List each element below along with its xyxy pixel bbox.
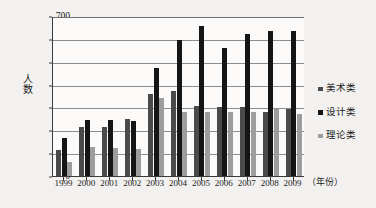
bar [222, 48, 227, 176]
bar [251, 112, 256, 176]
chart-legend: 美术类设计类理论类 [318, 84, 356, 155]
bar [131, 121, 136, 176]
x-tick-label: 2006 [215, 179, 233, 188]
bar-group [217, 17, 233, 176]
bar [56, 150, 61, 176]
x-tick-label: 2009 [284, 179, 302, 188]
legend-swatch-icon [318, 134, 323, 139]
bar [113, 148, 118, 176]
bar [263, 112, 268, 176]
bar [67, 162, 72, 176]
x-tick-label: 2007 [238, 179, 256, 188]
plot-area [52, 17, 304, 177]
bar-group [171, 17, 187, 176]
bar-group [102, 17, 118, 176]
bar [228, 112, 233, 176]
bar [62, 138, 67, 176]
x-tick-label: 1999 [54, 179, 72, 188]
bar [286, 109, 291, 176]
bar [245, 34, 250, 176]
bar [268, 31, 273, 176]
bar-group [125, 17, 141, 176]
bar [125, 119, 130, 176]
bar [240, 107, 245, 176]
x-tick-label: 2004 [169, 179, 187, 188]
bar [79, 127, 84, 176]
x-axis-ticks: 1999200020012002200320042005200620072008… [52, 178, 304, 192]
bar [199, 26, 204, 176]
x-tick-label: 2005 [192, 179, 210, 188]
bar [171, 91, 176, 176]
bar [205, 112, 210, 176]
legend-label: 设计类 [326, 108, 356, 118]
bar [108, 120, 113, 176]
bar [148, 94, 153, 176]
bar [159, 98, 164, 176]
bar [291, 31, 296, 176]
bar-group [194, 17, 210, 176]
bar-group [56, 17, 72, 176]
legend-item[interactable]: 理论类 [318, 131, 356, 141]
x-tick-label: 2000 [77, 179, 95, 188]
bar [194, 106, 199, 176]
bar-group [263, 17, 279, 176]
bar-group [286, 17, 302, 176]
bar [136, 149, 141, 176]
x-tick-label: 2002 [123, 179, 141, 188]
bar-chart: 人数 0100200300400500600700 19992000200120… [0, 0, 376, 208]
bar-group [240, 17, 256, 176]
legend-label: 美术类 [326, 84, 356, 94]
bar [217, 107, 222, 176]
x-tick-label: 2001 [100, 179, 118, 188]
bar-group [79, 17, 95, 176]
bar [90, 147, 95, 176]
x-tick-label: 2008 [261, 179, 279, 188]
legend-swatch-icon [318, 110, 323, 115]
bar [154, 68, 159, 176]
legend-swatch-icon [318, 87, 323, 92]
bar [297, 114, 302, 176]
legend-label: 理论类 [326, 131, 356, 141]
x-tick-label: 2003 [146, 179, 164, 188]
bar [85, 120, 90, 176]
legend-item[interactable]: 设计类 [318, 108, 356, 118]
bar-group [148, 17, 164, 176]
bar [177, 40, 182, 176]
bar [274, 109, 279, 176]
x-axis-title: （年份） [307, 178, 343, 187]
bar [102, 127, 107, 176]
legend-item[interactable]: 美术类 [318, 84, 356, 94]
bar [182, 112, 187, 176]
